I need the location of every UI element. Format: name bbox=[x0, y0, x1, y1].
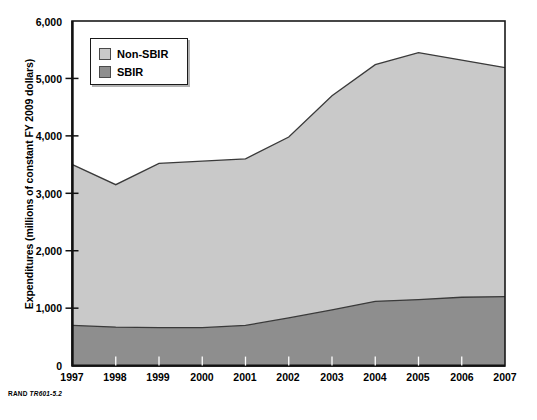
x-tick-label-2002: 2002 bbox=[263, 372, 313, 383]
legend-swatch-sbir-icon bbox=[99, 66, 111, 78]
figure-source-note: RAND TR601-5.2 bbox=[8, 390, 62, 397]
x-tick-label-2005: 2005 bbox=[393, 372, 443, 383]
legend-item-sbir: SBIR bbox=[99, 64, 143, 80]
legend-label-non-sbir: Non-SBIR bbox=[117, 49, 168, 60]
x-tick-label-2007: 2007 bbox=[480, 372, 530, 383]
source-org: RAND bbox=[8, 390, 28, 397]
legend-label-sbir: SBIR bbox=[117, 67, 143, 78]
x-tick-label-1999: 1999 bbox=[133, 372, 183, 383]
chart-figure: Expenditures (millions of constant FY 20… bbox=[0, 0, 537, 420]
plot-area bbox=[0, 0, 537, 420]
legend-swatch-non-sbir-icon bbox=[99, 48, 111, 60]
source-figure-code: TR601-5.2 bbox=[30, 390, 63, 397]
chart-legend: Non-SBIR SBIR bbox=[90, 38, 188, 85]
legend-item-non-sbir: Non-SBIR bbox=[99, 46, 168, 62]
